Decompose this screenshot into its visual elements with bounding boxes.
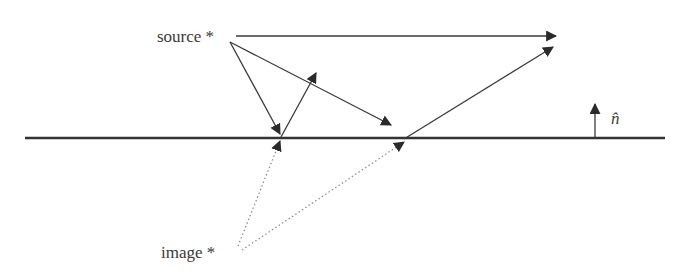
reflected-ray-1-arrow (281, 73, 316, 137)
image-ray-1-dotted (238, 141, 280, 246)
image-label: image * (161, 243, 215, 262)
normal-vector-label: n̂ (611, 109, 620, 128)
image-ray-2-dotted (242, 142, 404, 250)
diagram-svg: source * image * n̂ (0, 0, 689, 276)
incident-ray-1-arrow (230, 42, 280, 134)
reflected-ray-2-arrow (404, 47, 553, 139)
source-label: source * (157, 27, 214, 46)
incident-ray-2-arrow (230, 42, 391, 125)
diagram-canvas: source * image * n̂ (0, 0, 689, 276)
